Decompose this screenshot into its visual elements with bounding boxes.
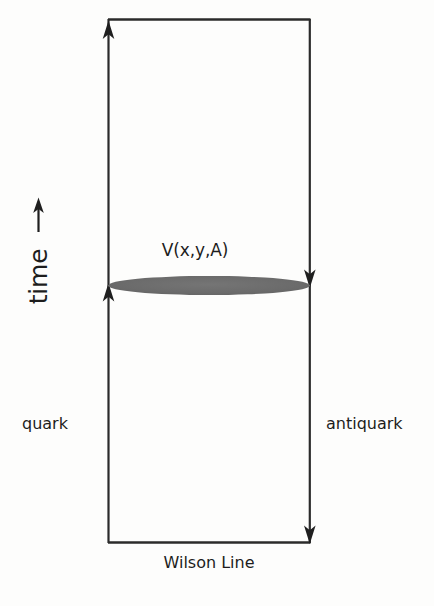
wilson-line-label: Wilson Line	[108, 553, 310, 572]
antiquark-label: antiquark	[326, 414, 403, 433]
figure-canvas: V(x,y,A) quark antiquark Wilson Line tim…	[0, 0, 434, 606]
potential-label: V(x,y,A)	[140, 240, 250, 260]
time-axis-label: time	[24, 225, 53, 329]
potential-blob	[108, 276, 310, 295]
quark-label: quark	[22, 414, 68, 433]
time-axis-group: time	[8, 196, 68, 346]
